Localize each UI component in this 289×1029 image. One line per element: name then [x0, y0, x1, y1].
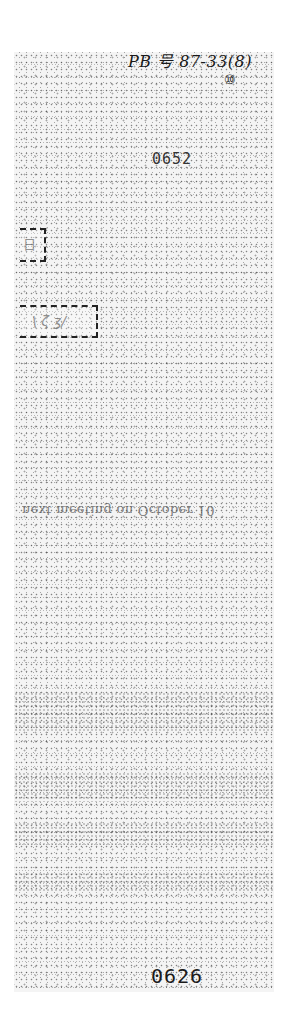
- box-glyph: 日: [23, 234, 36, 253]
- box-scribble: \ ζ ʒ/: [32, 313, 66, 329]
- handwritten-reference: PB 号 87-33(8): [128, 48, 252, 72]
- small-dashed-box: 日: [20, 228, 46, 262]
- noise-band: [14, 872, 274, 892]
- handwritten-circled-number: ⑩: [224, 72, 236, 87]
- noise-band: [14, 692, 274, 732]
- wide-dashed-box: \ ζ ʒ/: [20, 305, 98, 338]
- noise-band: [14, 772, 274, 802]
- noise-band: [14, 822, 274, 847]
- stamped-number-bottom: 0626: [151, 964, 203, 988]
- scanned-noise-field: [14, 52, 274, 992]
- mirrored-text-line: next meeting on October 10: [22, 503, 215, 518]
- stamped-number-top: 0652: [152, 150, 192, 168]
